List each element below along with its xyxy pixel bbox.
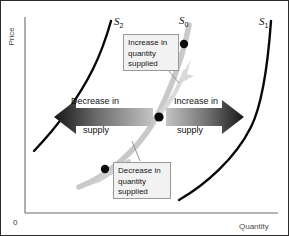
supply-curve-diagram: Price Quantity 0 S2 S0 S1 Decrease in su…	[0, 0, 289, 236]
point-middle	[154, 112, 163, 121]
origin-label: 0	[13, 219, 17, 228]
increase-supply-label-line2: supply	[177, 125, 203, 135]
callout-increase-line3: supplied	[128, 59, 174, 70]
callout-increase-line1: Increase in	[128, 38, 174, 49]
decrease-supply-label-line2: supply	[83, 125, 109, 135]
callout-decrease-line2: quantity	[118, 177, 166, 188]
increase-supply-label-line1: Increase in	[174, 96, 218, 106]
curve-label-s2: S2	[114, 15, 123, 30]
callout-decrease-line1: Decrease in	[118, 166, 166, 177]
callout-decrease-quantity-supplied: Decrease in quantity supplied	[113, 162, 171, 199]
curve-label-s0-subscript: 0	[185, 21, 189, 28]
curve-label-s2-subscript: 2	[120, 22, 124, 29]
callout-increase-line2: quantity	[128, 49, 174, 60]
curve-label-s0: S0	[179, 14, 188, 29]
curve-label-s1: S1	[259, 15, 268, 30]
y-axis-label: Price	[8, 19, 17, 53]
callout-decrease-line3: supplied	[118, 187, 166, 198]
decrease-supply-label-line1: Decrease in	[71, 96, 119, 106]
point-lower	[101, 165, 109, 173]
point-upper	[180, 40, 188, 48]
curve-label-s1-subscript: 1	[265, 22, 269, 29]
x-axis-label: Quantity	[239, 223, 269, 232]
callout-increase-quantity-supplied: Increase in quantity supplied	[123, 34, 179, 71]
